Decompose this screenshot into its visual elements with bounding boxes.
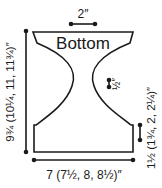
bottom-band-label: 1½ (1¾, 2, 2¼)″ — [145, 87, 157, 169]
piece-label: Bottom — [56, 34, 110, 53]
height-dimension: 9¾ (10¼, 11, 11¾)″ — [4, 29, 28, 155]
notch-label: ½″ — [111, 78, 122, 90]
top-width-dimension: 2″ — [69, 7, 98, 26]
bottom-band-dimension: 1½ (1¾, 2, 2¼)″ — [138, 87, 157, 169]
notch-dimension: ½″ — [107, 78, 122, 90]
height-label: 9¾ (10¼, 11, 11¾)″ — [4, 42, 16, 142]
top-width-label: 2″ — [78, 7, 90, 21]
bottom-width-dimension: 7 (7½, 8, 8½)″ — [32, 158, 136, 182]
schematic-diagram: 2″ Bottom 9¾ (10¼, 11, 11¾)″ ½″ 7 (7½, 8… — [0, 0, 162, 188]
bottom-width-label: 7 (7½, 8, 8½)″ — [46, 168, 122, 182]
